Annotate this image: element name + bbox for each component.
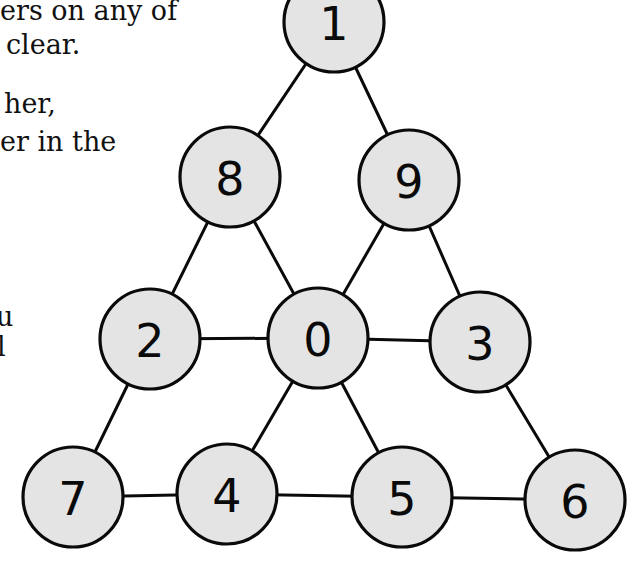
- node-3: 3: [430, 292, 530, 392]
- node-7: 7: [23, 447, 123, 547]
- node-label: 6: [560, 475, 589, 529]
- node-label: 9: [394, 155, 423, 209]
- node-label: 4: [212, 469, 241, 523]
- node-9: 9: [359, 130, 459, 230]
- graph-edges: [73, 22, 575, 500]
- node-2: 2: [100, 289, 200, 389]
- node-label: 1: [319, 0, 348, 51]
- graph-nodes: 1892037456: [23, 0, 625, 550]
- node-5: 5: [352, 447, 452, 547]
- number-triangle-graph: 1892037456: [0, 0, 640, 564]
- node-label: 0: [303, 313, 332, 367]
- node-6: 6: [525, 450, 625, 550]
- node-4: 4: [177, 444, 277, 544]
- node-label: 5: [387, 472, 416, 526]
- node-label: 7: [58, 472, 87, 526]
- node-0: 0: [268, 288, 368, 388]
- node-1: 1: [284, 0, 384, 72]
- node-label: 8: [215, 152, 244, 206]
- node-label: 3: [465, 317, 494, 371]
- node-8: 8: [180, 127, 280, 227]
- node-label: 2: [135, 314, 164, 368]
